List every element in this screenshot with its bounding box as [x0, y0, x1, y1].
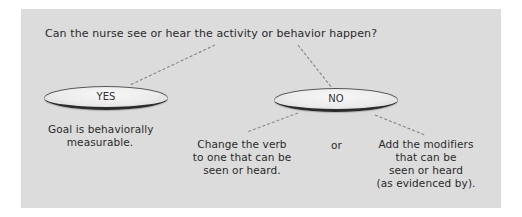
no-label: NO: [328, 93, 343, 104]
option-line: seen or heard.: [190, 164, 294, 177]
yes-outcome: Goal is behaviorally measurable.: [48, 123, 152, 149]
question-to-no-line: [298, 45, 332, 88]
no-to-verb-line: [247, 113, 298, 132]
no-node: NO: [274, 88, 398, 112]
question-text: Can the nurse see or hear the activity o…: [45, 27, 377, 40]
yes-label: YES: [97, 91, 116, 102]
option-line: to one that can be: [190, 151, 294, 164]
option-line: (as evidenced by).: [376, 177, 476, 190]
yes-node: YES: [44, 86, 168, 110]
or-connector: or: [331, 139, 342, 152]
no-to-modifier-line: [375, 115, 425, 135]
option-line: seen or heard: [376, 164, 476, 177]
change-verb-option: Change the verb to one that can be seen …: [190, 138, 294, 177]
question-to-yes-line: [130, 45, 215, 85]
option-line: Add the modifiers: [376, 138, 476, 151]
option-line: that can be: [376, 151, 476, 164]
yes-outcome-line: measurable.: [48, 136, 152, 149]
yes-outcome-line: Goal is behaviorally: [48, 123, 152, 136]
option-line: Change the verb: [190, 138, 294, 151]
add-modifiers-option: Add the modifiers that can be seen or he…: [376, 138, 476, 190]
